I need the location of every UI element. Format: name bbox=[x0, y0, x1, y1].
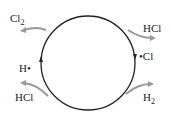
label-cl2: Cl2 bbox=[10, 13, 24, 27]
arrowhead-left-up-icon bbox=[39, 56, 43, 62]
arrowhead-icon bbox=[20, 27, 26, 33]
cl2-in-arrow bbox=[24, 28, 46, 30]
label-h-radical: H• bbox=[19, 63, 31, 74]
arrowhead-icon bbox=[20, 80, 26, 86]
label-hcl-bottom: HCl bbox=[15, 92, 33, 103]
label-h2: H2 bbox=[143, 92, 155, 106]
cycle-circle bbox=[41, 16, 135, 110]
label-cl-radical: •Cl bbox=[139, 51, 153, 62]
label-hcl-top: HCl bbox=[143, 23, 161, 34]
arrowhead-icon bbox=[150, 35, 156, 41]
arrowhead-icon bbox=[148, 81, 154, 87]
arrowhead-right-down-icon bbox=[133, 54, 137, 60]
